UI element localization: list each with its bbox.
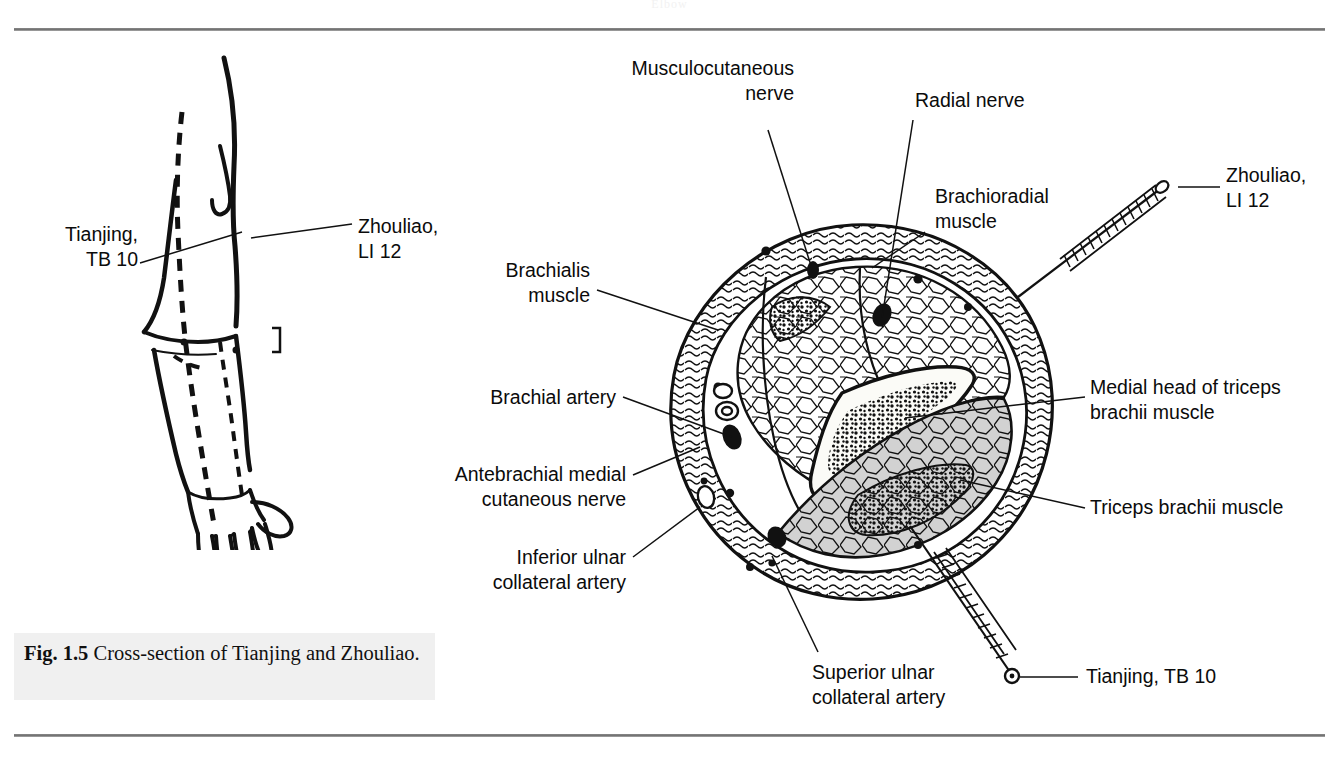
label-superior-ulnar-collateral-artery: Superior ulnar collateral artery	[812, 660, 1032, 710]
label-radial-nerve: Radial nerve	[915, 88, 1135, 113]
label-triceps-brachii-muscle: Triceps brachii muscle	[1090, 495, 1339, 520]
label-tianjing-left: Tianjing, TB 10	[10, 222, 138, 272]
label-brachial-artery: Brachial artery	[390, 385, 616, 410]
leader-tianjing-left	[140, 232, 242, 263]
leader-radial-nerve	[882, 120, 913, 318]
label-brachioradial-muscle: Brachioradial muscle	[935, 184, 1135, 234]
leader-medial-head-triceps	[905, 397, 1085, 418]
leader-brachialis-muscle	[597, 290, 718, 330]
leader-musculocutaneous-nerve	[768, 130, 813, 272]
label-inferior-ulnar-collateral-artery: Inferior ulnar collateral artery	[406, 545, 626, 595]
leader-brachioradial-muscle	[872, 232, 925, 268]
label-brachialis-muscle: Brachialis muscle	[400, 258, 590, 308]
label-antebrachial-medial-cutaneous-nerve: Antebrachial medial cutaneous nerve	[406, 462, 626, 512]
figure-number: Fig. 1.5	[24, 642, 88, 664]
label-zhouliao-needle: Zhouliao, LI 12	[1226, 163, 1339, 213]
leader-antebrachial-nerve	[633, 447, 700, 475]
leader-triceps-brachii	[960, 480, 1085, 508]
figure-page: Elbow	[0, 0, 1339, 768]
figure-caption-text: Cross-section of Tianjing and Zhouliao.	[93, 642, 419, 664]
leader-zhouliao-left	[251, 224, 352, 238]
label-zhouliao-left: Zhouliao, LI 12	[358, 214, 518, 264]
label-medial-head-of-triceps: Medial head of triceps brachii muscle	[1090, 375, 1339, 425]
leader-brachial-artery	[623, 397, 732, 437]
leader-inferior-ulnar-artery	[633, 507, 700, 557]
label-musculocutaneous-nerve: Musculocutaneous nerve	[578, 56, 794, 106]
label-tianjing-needle: Tianjing, TB 10	[1086, 664, 1306, 689]
figure-caption: Fig. 1.5 Cross-section of Tianjing and Z…	[24, 640, 424, 666]
leader-superior-ulnar-artery	[772, 556, 818, 652]
